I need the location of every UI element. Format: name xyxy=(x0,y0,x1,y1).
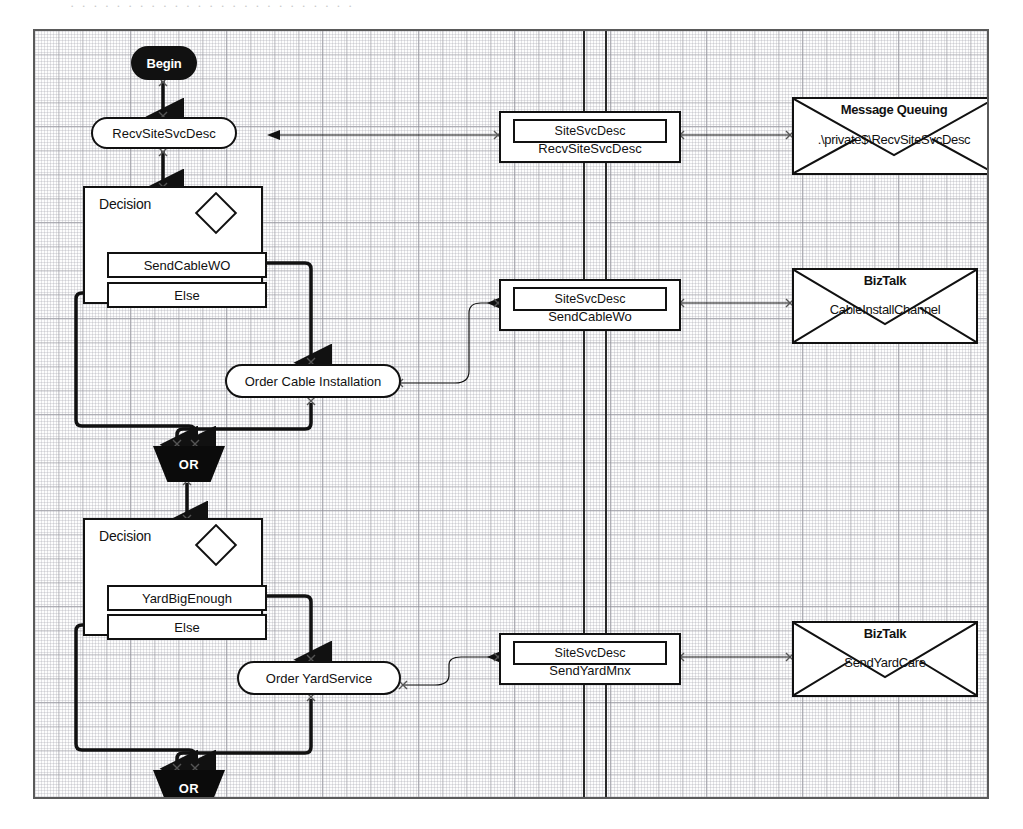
transport-message-queuing[interactable]: Message Queuing .\private$\RecvSiteSvcDe… xyxy=(792,97,989,175)
port-box-send-cable[interactable]: SiteSvcDesc SendCableWo xyxy=(499,279,681,331)
or-join-2-label: OR xyxy=(179,781,200,796)
node-order-yard-service-label: Order YardService xyxy=(266,671,372,686)
transport-biztalk-yard-title: BizTalk xyxy=(794,626,976,641)
branch-yard-big-enough-label: YardBigEnough xyxy=(142,591,232,606)
decision-diamond-icon xyxy=(195,192,237,234)
port-send-yard-message-type[interactable]: SiteSvcDesc xyxy=(513,641,667,665)
transport-biztalk-cable[interactable]: BizTalk CableInstallChannel xyxy=(792,268,978,344)
node-recv-site-svc-desc-label: RecvSiteSvcDesc xyxy=(112,126,215,141)
port-send-cable-operation: SendCableWo xyxy=(501,309,679,324)
transport-msmq-address: .\private$\RecvSiteSvcDesc xyxy=(794,132,989,147)
node-order-cable-installation[interactable]: Order Cable Installation xyxy=(225,364,401,398)
port-recv-operation: RecvSiteSvcDesc xyxy=(501,141,679,156)
branch-yard-else[interactable]: Else xyxy=(107,614,267,640)
port-box-send-yard[interactable]: SiteSvcDesc SendYardMnx xyxy=(499,633,681,685)
node-or-join-2[interactable]: OR xyxy=(153,770,225,799)
branch-cable-else-label: Else xyxy=(174,288,199,303)
branch-yard-else-label: Else xyxy=(174,620,199,635)
scan-artifact-text: · · · · · · · · · · · · · · · · · · · · … xyxy=(70,0,570,14)
transport-biztalk-yard[interactable]: BizTalk SendYardCare xyxy=(792,621,978,697)
node-begin[interactable]: Begin xyxy=(131,46,197,80)
branch-send-cable-wo-label: SendCableWO xyxy=(144,258,231,273)
port-send-cable-message-type[interactable]: SiteSvcDesc xyxy=(513,287,667,311)
decision-cable-title: Decision xyxy=(99,196,151,212)
branch-yard-big-enough[interactable]: YardBigEnough xyxy=(107,585,267,611)
decision-diamond-icon-2 xyxy=(195,524,237,566)
transport-msmq-title: Message Queuing xyxy=(794,102,989,117)
port-send-yard-operation: SendYardMnx xyxy=(501,663,679,678)
port-recv-message-type[interactable]: SiteSvcDesc xyxy=(513,119,667,143)
decision-yard-title: Decision xyxy=(99,528,151,544)
transport-biztalk-cable-address: CableInstallChannel xyxy=(794,302,976,317)
transport-biztalk-cable-title: BizTalk xyxy=(794,273,976,288)
node-recv-site-svc-desc[interactable]: RecvSiteSvcDesc xyxy=(91,117,237,149)
branch-cable-else[interactable]: Else xyxy=(107,282,267,308)
node-begin-label: Begin xyxy=(146,56,181,71)
diagram-canvas: Begin RecvSiteSvcDesc Decision SendCable… xyxy=(33,29,989,799)
node-order-cable-installation-label: Order Cable Installation xyxy=(245,374,382,389)
or-join-1-label: OR xyxy=(179,457,200,472)
branch-send-cable-wo[interactable]: SendCableWO xyxy=(107,252,267,278)
transport-biztalk-yard-address: SendYardCare xyxy=(794,655,976,670)
port-box-recv[interactable]: SiteSvcDesc RecvSiteSvcDesc xyxy=(499,111,681,163)
node-order-yard-service[interactable]: Order YardService xyxy=(237,661,401,695)
